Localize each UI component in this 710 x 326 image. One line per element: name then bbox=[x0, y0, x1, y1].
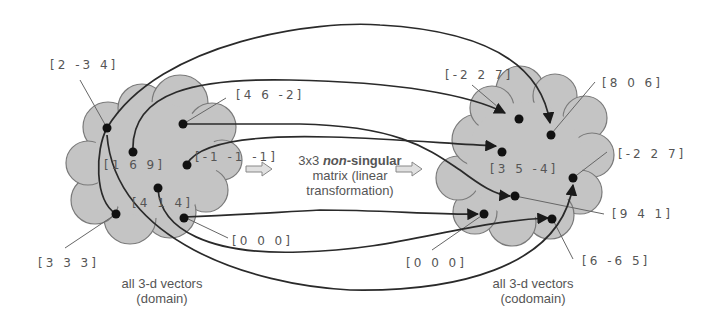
caption-line: all 3-d vectors bbox=[112, 276, 212, 291]
caption-line: (domain) bbox=[112, 291, 212, 306]
vector-label: [0 0 0] bbox=[232, 234, 293, 248]
vector-label: [-2 2 7] bbox=[445, 68, 513, 82]
caption-line: all 3-d vectors bbox=[478, 276, 588, 291]
domain-caption: all 3-d vectors (domain) bbox=[112, 276, 212, 306]
vector-label: [3 5 -4] bbox=[490, 162, 558, 176]
caption-line: transformation) bbox=[280, 183, 420, 198]
vector-label: [8 0 6] bbox=[602, 76, 663, 90]
vector-label: [9 4 1] bbox=[612, 207, 673, 221]
vector-label: [-2 2 7] bbox=[618, 147, 686, 161]
vector-label: [4 6 -2] bbox=[236, 88, 304, 102]
caption-emphasis: non bbox=[323, 153, 347, 168]
vector-label: [1 6 9] bbox=[104, 158, 165, 172]
caption-line: matrix (linear bbox=[280, 168, 420, 183]
transformation-caption: 3x3 non-singular matrix (linear transfor… bbox=[280, 153, 420, 198]
vector-label: [6 -6 5] bbox=[582, 254, 650, 268]
caption-suffix: -singular bbox=[347, 153, 402, 168]
vector-label: [0 0 0] bbox=[406, 256, 467, 270]
vector-label: [-1 -1 -1] bbox=[195, 150, 278, 164]
vector-label: [2 -3 4] bbox=[50, 58, 118, 72]
caption-prefix: 3x3 bbox=[298, 153, 323, 168]
caption-line: 3x3 non-singular bbox=[280, 153, 420, 168]
vector-label: [4 1 4] bbox=[132, 196, 193, 210]
vector-label: [3 3 3] bbox=[38, 256, 99, 270]
caption-line: (codomain) bbox=[478, 291, 588, 306]
codomain-caption: all 3-d vectors (codomain) bbox=[478, 276, 588, 306]
